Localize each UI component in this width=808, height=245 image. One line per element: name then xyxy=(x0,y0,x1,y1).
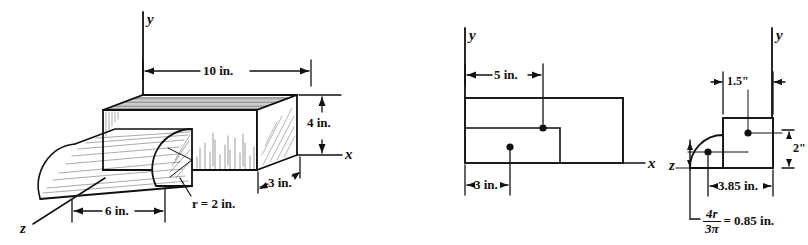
figure3-dim-2in-label: 2" xyxy=(793,142,806,154)
figure-page: y x z 10 in. 4 in. 3 in. 6 in. r = 2 in.… xyxy=(0,0,808,245)
formula-value: 0.85 in. xyxy=(734,213,774,229)
figure1-radius-label: r = 2 in. xyxy=(192,197,235,210)
figure3-quarter-centroid-leader xyxy=(690,170,700,219)
formula-denominator: 3π xyxy=(703,222,721,236)
figure3-dim-1p5in-label: 1.5" xyxy=(727,75,749,87)
figure2-dim-5in-label: 5 in. xyxy=(494,68,518,81)
figure1-radius-leader xyxy=(180,178,191,196)
figure2-x-axis-label: x xyxy=(648,156,656,171)
figure3-rectangle xyxy=(723,118,773,168)
figure1-dim-3in-label: 3 in. xyxy=(268,176,292,189)
figure1-y-axis-label: y xyxy=(147,12,154,27)
figure1-top-face-hatching xyxy=(107,97,290,108)
figure1-dim-10in-label: 10 in. xyxy=(203,64,233,77)
figure2-outer-rectangle xyxy=(465,98,623,163)
figure3-centroid-dots xyxy=(704,129,751,155)
figure1-half-cylinder xyxy=(38,129,192,199)
figure3-quarter-circle xyxy=(690,135,723,168)
figure2-lower-centroid-dot xyxy=(506,143,513,150)
figure1-cutout-shading xyxy=(197,133,254,170)
formula-numerator: 4r xyxy=(704,207,720,221)
figure3-rect-centroid-dot xyxy=(744,129,751,136)
figure3-quarter-centroid-dot xyxy=(704,148,711,155)
figure1-block-front-face xyxy=(103,110,257,170)
figure1-z-axis xyxy=(33,178,105,224)
figure2-y-axis-label: y xyxy=(469,28,476,43)
figure3-quarter-centroid-formula: 4r 3π = 0.85 in. xyxy=(703,207,774,236)
figure3-y-axis-label: y xyxy=(776,28,783,43)
figure2-dim-3in-label: 3 in. xyxy=(474,178,498,191)
formula-fraction: 4r 3π xyxy=(703,207,721,236)
formula-equals: = xyxy=(724,213,731,229)
figure1-x-axis-label: x xyxy=(345,147,353,162)
figure1-left-face-shading xyxy=(106,112,118,136)
figure2-centroid-dots xyxy=(506,124,546,150)
figure3-z-axis-label: z xyxy=(669,158,675,173)
figure1-block-top-face xyxy=(103,95,297,110)
figure1-dim-6in-label: 6 in. xyxy=(105,204,129,217)
figure2-upper-centroid-dot xyxy=(539,124,546,131)
figure3-z-axis xyxy=(687,140,693,170)
figure3-center-lines xyxy=(676,133,782,168)
figure2-inner-step xyxy=(465,128,560,163)
figure1-block-right-face xyxy=(257,95,297,170)
figure1-dim-4in-label: 4 in. xyxy=(307,116,331,129)
figure1-right-face-hatching xyxy=(262,108,295,165)
figure1-z-axis-label: z xyxy=(20,221,26,236)
figure3-dim-385in-label: 3.85 in. xyxy=(718,179,758,192)
